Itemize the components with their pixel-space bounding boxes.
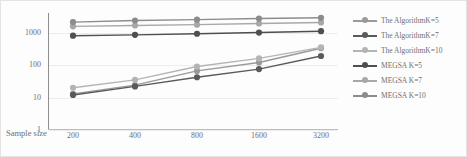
- chart-figure: Average computing time/s 1101001000 Samp…: [0, 0, 467, 157]
- y-tick-label: 1000: [25, 29, 41, 37]
- legend-label: The AlgorithmK=5: [381, 16, 439, 25]
- data-point: [256, 15, 262, 21]
- y-tick-label: 100: [29, 61, 41, 69]
- legend-marker-icon: [353, 60, 377, 71]
- x-tick-label: 3200: [313, 131, 329, 140]
- data-point: [70, 33, 76, 39]
- x-tick-label: 200: [67, 131, 79, 140]
- data-point: [70, 92, 76, 98]
- y-tick-label: 10: [33, 94, 41, 102]
- data-point: [318, 15, 324, 21]
- legend-label: The AlgorithmK=7: [381, 31, 439, 40]
- legend-marker-icon: [353, 75, 377, 86]
- data-point: [256, 66, 262, 72]
- legend-label: MEGSA K=7: [381, 76, 422, 85]
- x-tick-label: 1600: [251, 131, 267, 140]
- data-point: [194, 17, 200, 23]
- series-1: [70, 45, 324, 97]
- legend-item[interactable]: MEGSA K=7: [353, 73, 465, 88]
- data-point: [256, 55, 262, 61]
- data-point: [256, 29, 262, 35]
- legend-item[interactable]: MEGSA K=10: [353, 88, 465, 103]
- plot-inner: [48, 13, 338, 130]
- data-point: [70, 85, 76, 91]
- data-point: [194, 63, 200, 69]
- legend-marker-icon: [353, 15, 377, 26]
- data-point: [132, 83, 138, 89]
- plot-area: [48, 13, 338, 130]
- data-point: [194, 74, 200, 80]
- series-layer: [48, 13, 338, 130]
- series-4: [70, 28, 324, 39]
- data-point: [132, 77, 138, 83]
- x-tick-label: 800: [191, 131, 203, 140]
- x-axis-title: Sample size: [6, 128, 47, 138]
- data-point: [318, 44, 324, 50]
- data-point: [318, 28, 324, 34]
- data-point: [132, 17, 138, 23]
- legend-label: MEGSA K=5: [381, 61, 422, 70]
- legend-label: The AlgorithmK=10: [381, 46, 443, 55]
- legend-label: MEGSA K=10: [381, 91, 426, 100]
- legend-marker-icon: [353, 45, 377, 56]
- data-point: [194, 31, 200, 37]
- legend-item[interactable]: MEGSA K=5: [353, 58, 465, 73]
- legend-marker-icon: [353, 30, 377, 41]
- legend-item[interactable]: The AlgorithmK=5: [353, 13, 465, 28]
- series-2: [70, 53, 324, 98]
- data-point: [70, 19, 76, 25]
- x-axis-tick-labels: 20040080016003200: [48, 131, 338, 145]
- series-3: [70, 44, 324, 91]
- data-point: [132, 32, 138, 38]
- x-tick-label: 400: [129, 131, 141, 140]
- data-point: [318, 53, 324, 59]
- legend-marker-icon: [353, 90, 377, 101]
- y-axis-tick-labels: 1101001000: [0, 13, 44, 130]
- chart-legend: The AlgorithmK=5The AlgorithmK=7The Algo…: [353, 13, 465, 103]
- legend-item[interactable]: The AlgorithmK=7: [353, 28, 465, 43]
- legend-item[interactable]: The AlgorithmK=10: [353, 43, 465, 58]
